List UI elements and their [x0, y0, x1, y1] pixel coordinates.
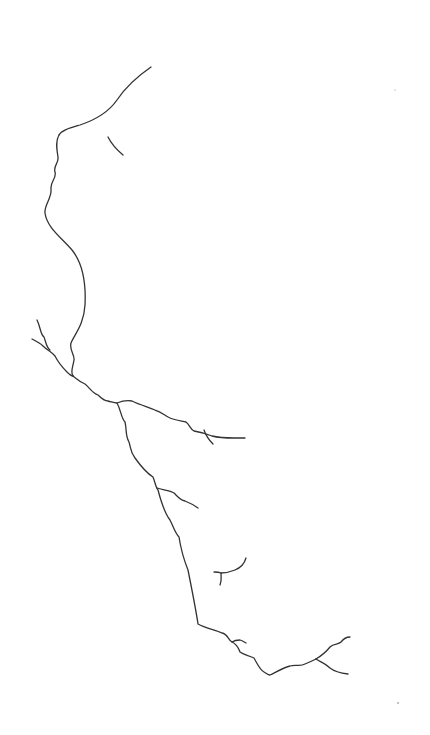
speck: [395, 90, 396, 91]
isolated-fork: [214, 558, 246, 573]
drawing-strokes: [32, 67, 350, 675]
right-fork-upper: [316, 637, 350, 659]
right-fork-lower: [316, 659, 348, 674]
left-tributary-lower: [32, 339, 73, 376]
line-drawing-canvas: [0, 0, 430, 735]
profile-forehead: [59, 67, 151, 135]
main-channel: [73, 376, 316, 675]
speck: [397, 702, 399, 704]
upper-right-subbranch: [204, 430, 213, 444]
left-tributary-upper: [37, 320, 50, 350]
profile-face: [45, 135, 85, 376]
eyebrow: [108, 137, 123, 155]
upper-right-tributary: [117, 401, 245, 438]
drawing-specks: [395, 90, 399, 704]
isolated-fork-stem: [220, 573, 221, 585]
